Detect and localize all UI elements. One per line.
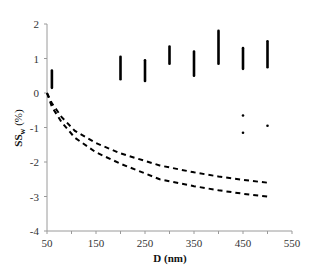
x-tick-label: 150 <box>88 237 105 249</box>
x-tick-label: 50 <box>42 237 54 249</box>
y-tick-label: 2 <box>34 18 40 30</box>
x-tick-label: 250 <box>137 237 154 249</box>
x-tick-label: 350 <box>186 237 203 249</box>
lower-dashed-curve <box>47 93 268 197</box>
x-tick-label: 450 <box>235 237 252 249</box>
x-tick-label: 550 <box>284 237 301 249</box>
y-tick-label: -4 <box>30 225 40 237</box>
y-axis-title: SSw (%) <box>12 109 27 147</box>
y-axis-title-unit: (%) <box>12 109 25 129</box>
chart-canvas: 210-1-2-3-450150250350450550 D (nm) SSw … <box>0 0 316 272</box>
x-axis-title: D (nm) <box>153 252 187 265</box>
data-point <box>242 131 245 134</box>
data-point <box>266 124 269 127</box>
y-tick-label: 0 <box>34 87 40 99</box>
upper-dashed-curve <box>47 93 268 183</box>
y-tick-label: -1 <box>30 122 39 134</box>
plot-area <box>47 31 269 197</box>
data-point <box>242 114 245 117</box>
y-tick-label: 1 <box>34 53 40 65</box>
y-tick-label: -3 <box>30 191 40 203</box>
y-axis-title-main: SS <box>12 134 24 146</box>
y-tick-label: -2 <box>30 156 39 168</box>
